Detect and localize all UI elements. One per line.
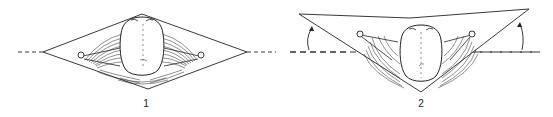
figure-2-label: 2 <box>411 98 431 109</box>
rotation-arrow-right <box>517 22 523 50</box>
right-limb-tip <box>198 52 204 58</box>
figure-1-label: 1 <box>136 98 156 109</box>
rotation-arrow-left <box>308 26 314 50</box>
frog-body <box>120 17 164 75</box>
figure-1 <box>18 14 276 89</box>
left-limb-tip <box>78 52 84 58</box>
left-limb-tip <box>357 31 363 37</box>
diagram-canvas <box>0 0 553 117</box>
right-limb-tip <box>469 31 475 37</box>
figure-2 <box>290 9 540 92</box>
